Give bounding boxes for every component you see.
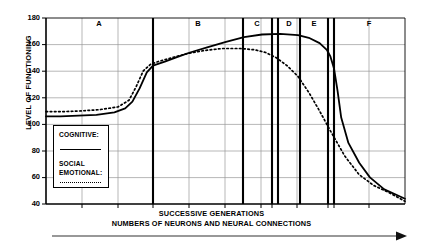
chart-figure: LEVEL OF FUNCTIONING 180 160 140 120 100… — [0, 0, 423, 249]
direction-arrow-layer — [0, 0, 423, 249]
arrow-head-icon — [396, 232, 407, 241]
